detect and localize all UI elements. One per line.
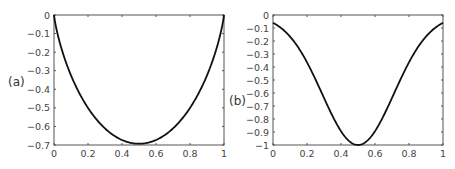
y-tick-label: −0.2 [27, 47, 50, 58]
y-tick-label: −0.5 [27, 102, 50, 113]
x-tick-label: 0.8 [182, 148, 197, 159]
x-tick-label: 0 [270, 148, 276, 159]
y-tick-label: −0.4 [246, 62, 269, 73]
x-tick-label: 0.8 [401, 148, 416, 159]
x-tick-label: 0.4 [333, 148, 348, 159]
axes-frame [273, 15, 443, 145]
y-tick-label: −0.1 [27, 28, 50, 39]
y-tick-label: −0.3 [27, 65, 50, 76]
panel-label: (a) [8, 75, 25, 89]
y-tick-label: 0 [44, 10, 50, 21]
x-tick-label: 0 [51, 148, 57, 159]
x-tick-label: 1 [221, 148, 227, 159]
chart-panel-a: 00.20.40.60.810−0.1−0.2−0.3−0.4−0.5−0.6−… [8, 10, 227, 160]
y-tick-label: −0.2 [246, 36, 269, 47]
x-tick-label: 1 [440, 148, 446, 159]
x-tick-label: 0.6 [367, 148, 382, 159]
axes-frame [54, 15, 224, 145]
series-line-curve-b [273, 23, 443, 145]
y-tick-label: −0.7 [27, 140, 50, 151]
chart-panel-b: 00.20.40.60.810−0.1−0.2−0.3−0.4−0.5−0.6−… [229, 10, 446, 160]
x-tick-label: 0.6 [148, 148, 163, 159]
x-tick-label: 0.2 [299, 148, 314, 159]
series-line-curve-a [54, 15, 224, 144]
y-tick-label: −1 [255, 140, 269, 151]
x-tick-label: 0.4 [114, 148, 129, 159]
y-tick-label: −0.1 [246, 23, 269, 34]
figure: 00.20.40.60.810−0.1−0.2−0.3−0.4−0.5−0.6−… [0, 0, 455, 169]
y-tick-label: −0.5 [246, 75, 269, 86]
y-tick-label: 0 [263, 10, 269, 21]
y-tick-label: −0.8 [246, 114, 269, 125]
y-tick-label: −0.3 [246, 49, 269, 60]
panel-label: (b) [229, 94, 246, 108]
y-tick-label: −0.9 [246, 127, 269, 138]
y-tick-label: −0.4 [27, 84, 50, 95]
y-tick-label: −0.6 [246, 88, 269, 99]
y-tick-label: −0.7 [246, 101, 269, 112]
x-tick-label: 0.2 [80, 148, 95, 159]
y-tick-label: −0.6 [27, 121, 50, 132]
